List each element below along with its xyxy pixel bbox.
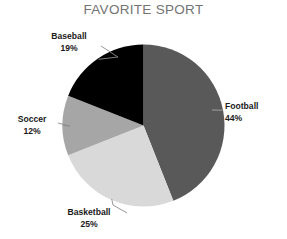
slice-label-basketball: Basketball 25%	[52, 207, 126, 230]
slice-label-football: Football 44%	[225, 101, 285, 124]
slice-label-soccer-name: Soccer	[8, 114, 56, 126]
pie-slices	[63, 45, 225, 207]
slice-label-basketball-value: 25%	[52, 219, 126, 231]
slice-label-soccer-value: 12%	[8, 126, 56, 138]
slice-label-baseball: Baseball 19%	[36, 31, 102, 54]
slice-label-basketball-name: Basketball	[52, 207, 126, 219]
slice-label-baseball-value: 19%	[36, 43, 102, 55]
slice-label-baseball-name: Baseball	[36, 31, 102, 43]
leader-line-football	[212, 110, 223, 111]
slice-label-football-value: 44%	[225, 113, 285, 125]
slice-label-soccer: Soccer 12%	[8, 114, 56, 137]
pie-chart-figure: FAVORITE SPORT Baseball 19% Football 44%…	[0, 0, 287, 239]
slice-label-football-name: Football	[225, 101, 285, 113]
